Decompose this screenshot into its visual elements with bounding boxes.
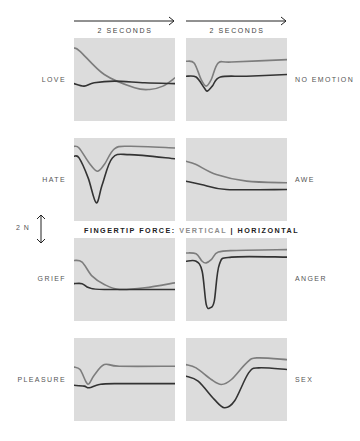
label-anger: ANGER bbox=[295, 275, 327, 283]
horizontal-force-trace bbox=[186, 75, 287, 92]
panel-awe bbox=[186, 138, 287, 221]
time-arrow-right bbox=[184, 16, 290, 26]
panel-grief bbox=[74, 238, 175, 321]
scale-label: 2 N bbox=[16, 224, 30, 231]
label-pleasure: PLEASURE bbox=[6, 376, 66, 384]
vertical-force-trace bbox=[186, 358, 287, 385]
label-hate: HATE bbox=[6, 176, 66, 184]
legend-prefix: FINGERTIP FORCE: bbox=[84, 226, 179, 235]
label-no-emotion: NO EMOTION bbox=[295, 76, 354, 84]
panel-love bbox=[74, 38, 175, 121]
time-arrow-left bbox=[72, 16, 178, 26]
time-label-left: 2 SECONDS bbox=[74, 27, 176, 34]
legend-vertical: VERTICAL bbox=[179, 226, 227, 235]
label-love: LOVE bbox=[6, 76, 66, 84]
scale-double-arrow-icon bbox=[35, 213, 47, 245]
vertical-force-trace bbox=[74, 364, 175, 384]
panel-anger bbox=[186, 238, 287, 321]
panel-sex bbox=[186, 338, 287, 421]
panel-no-emotion bbox=[186, 38, 287, 121]
panel-hate bbox=[74, 138, 175, 221]
horizontal-force-trace bbox=[74, 283, 175, 289]
vertical-force-trace bbox=[186, 161, 287, 183]
horizontal-force-trace bbox=[186, 257, 287, 309]
horizontal-force-trace bbox=[74, 154, 175, 203]
legend-horizontal: HORIZONTAL bbox=[238, 226, 300, 235]
legend-separator: | bbox=[227, 226, 238, 235]
vertical-force-trace bbox=[74, 146, 175, 171]
time-label-right: 2 SECONDS bbox=[186, 27, 288, 34]
label-grief: GRIEF bbox=[6, 275, 66, 283]
chart-legend: FINGERTIP FORCE: VERTICAL | HORIZONTAL bbox=[84, 226, 299, 235]
vertical-force-trace bbox=[74, 260, 175, 289]
label-sex: SEX bbox=[295, 376, 313, 384]
label-awe: AWE bbox=[295, 176, 315, 184]
panel-pleasure bbox=[74, 338, 175, 421]
